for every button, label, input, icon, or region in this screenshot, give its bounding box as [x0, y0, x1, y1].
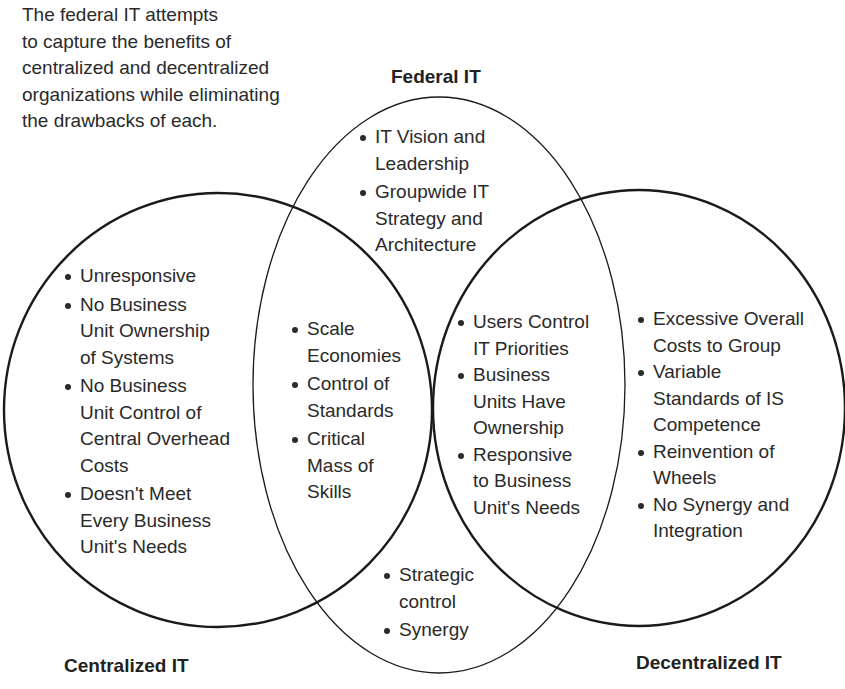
federal-it-label: Federal IT	[391, 66, 481, 88]
list-item: Doesn't Meet Every Business Unit's Needs	[63, 481, 230, 561]
list-item: Groupwide IT Strategy and Architecture	[358, 179, 489, 259]
centralized-federal-list: Scale Economies Control of Standards Cri…	[290, 316, 401, 508]
decentralized-only-list: Excessive Overall Costs to Group Variabl…	[636, 306, 804, 547]
list-item: Users Control IT Priorities	[456, 309, 589, 362]
list-item: Scale Economies	[290, 316, 401, 369]
centralized-only-list: Unresponsive No Business Unit Ownership …	[63, 263, 230, 563]
list-item: No Business Unit Control of Central Over…	[63, 373, 230, 479]
list-item: Unresponsive	[63, 263, 230, 290]
list-item: No Synergy and Integration	[636, 492, 804, 545]
intro-caption: The federal IT attempts to capture the b…	[22, 2, 352, 135]
list-item: Business Units Have Ownership	[456, 362, 589, 442]
list-item: Control of Standards	[290, 371, 401, 424]
list-item: Variable Standards of IS Competence	[636, 359, 804, 439]
decentralized-federal-list: Users Control IT Priorities Business Uni…	[456, 309, 589, 523]
federal-bottom-list: Strategic control Synergy	[382, 562, 474, 646]
list-item: Responsive to Business Unit's Needs	[456, 442, 589, 522]
list-item: IT Vision and Leadership	[358, 124, 489, 177]
decentralized-it-label: Decentralized IT	[636, 652, 782, 674]
list-item: No Business Unit Ownership of Systems	[63, 292, 230, 372]
list-item: Synergy	[382, 617, 474, 644]
list-item: Excessive Overall Costs to Group	[636, 306, 804, 359]
federal-only-list: IT Vision and Leadership Groupwide IT St…	[358, 124, 489, 261]
centralized-it-label: Centralized IT	[64, 655, 189, 677]
list-item: Strategic control	[382, 562, 474, 615]
list-item: Critical Mass of Skills	[290, 426, 401, 506]
list-item: Reinvention of Wheels	[636, 439, 804, 492]
